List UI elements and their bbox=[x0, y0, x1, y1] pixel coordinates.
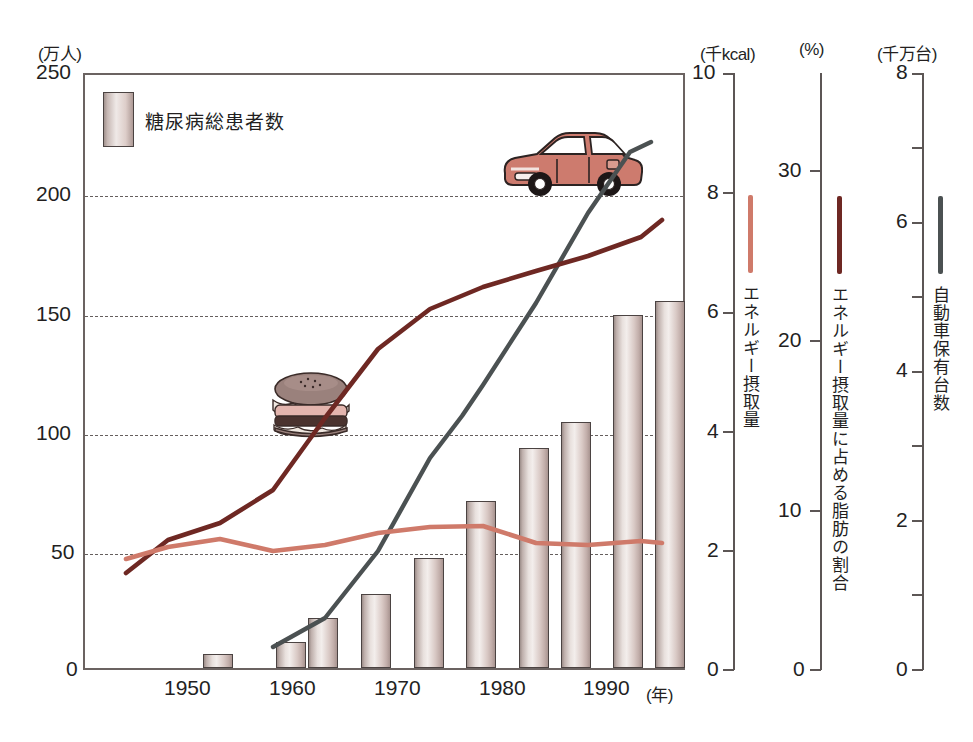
left-axis-tick-0: 0 bbox=[66, 657, 78, 681]
pct-axis-tick-30: 30 bbox=[778, 158, 801, 182]
pct-tickmark-10 bbox=[810, 510, 821, 512]
kcal-tickmark-8 bbox=[723, 192, 734, 194]
kcal-tickmark-0 bbox=[723, 669, 734, 671]
chart-canvas: (万人) 250 200 150 100 50 0 bbox=[0, 0, 973, 742]
cars-tickmark-3 bbox=[912, 445, 923, 447]
pct-series-label: エネルギー摂取量に占める脂肪の割合 bbox=[830, 286, 847, 592]
pct-tickmark-0 bbox=[810, 669, 821, 671]
pct-axis-line bbox=[820, 73, 822, 670]
kcal-axis-tick-6: 6 bbox=[707, 299, 719, 323]
plot-area: 糖尿病総患者数 bbox=[83, 73, 685, 670]
kcal-axis-tick-10: 10 bbox=[692, 60, 715, 84]
kcal-tickmark-2 bbox=[723, 550, 734, 552]
cars-series-swatch bbox=[938, 196, 943, 274]
kcal-axis-tick-2: 2 bbox=[707, 538, 719, 562]
cars-tickmark-1 bbox=[912, 594, 923, 596]
kcal-axis-tick-0: 0 bbox=[707, 657, 719, 681]
cars-axis-tick-2: 2 bbox=[896, 508, 908, 532]
x-axis-unit: (年) bbox=[646, 681, 673, 706]
cars-axis-tick-6: 6 bbox=[896, 209, 908, 233]
left-axis-tick-50: 50 bbox=[51, 540, 74, 564]
pct-axis-tick-20: 20 bbox=[778, 328, 801, 352]
kcal-series-swatch bbox=[748, 195, 753, 273]
x-axis-tick-1950: 1950 bbox=[164, 676, 211, 700]
legend-label-bars: 糖尿病総患者数 bbox=[145, 107, 285, 134]
series-lines bbox=[85, 75, 687, 672]
cars-tickmark-8 bbox=[912, 73, 923, 75]
kcal-series-label: エネルギー摂取量 bbox=[741, 285, 758, 429]
line-automobile-ownership bbox=[273, 142, 651, 647]
cars-tickmark-7 bbox=[912, 147, 923, 149]
kcal-tickmark-6 bbox=[723, 312, 734, 314]
cars-tickmark-4 bbox=[912, 371, 923, 373]
pct-axis-tick-10: 10 bbox=[778, 498, 801, 522]
cars-series-label: 自動車保有台数 bbox=[931, 286, 948, 412]
pct-axis-tick-0: 0 bbox=[793, 657, 805, 681]
legend-swatch-bars bbox=[103, 92, 134, 147]
pct-tickmark-20 bbox=[810, 340, 821, 342]
kcal-axis-tick-4: 4 bbox=[707, 419, 719, 443]
pct-axis-unit: (%) bbox=[799, 40, 824, 60]
kcal-tickmark-10 bbox=[723, 73, 734, 75]
line-energy-intake bbox=[126, 526, 662, 559]
x-axis-tick-1970: 1970 bbox=[374, 676, 421, 700]
kcal-axis-tick-8: 8 bbox=[707, 180, 719, 204]
left-axis-tick-100: 100 bbox=[36, 421, 71, 445]
kcal-tickmark-4 bbox=[723, 431, 734, 433]
pct-tickmark-30 bbox=[810, 170, 821, 172]
left-axis-tick-200: 200 bbox=[36, 182, 71, 206]
cars-axis-tick-4: 4 bbox=[896, 358, 908, 382]
x-axis-tick-1990: 1990 bbox=[583, 676, 630, 700]
cars-axis-tick-8: 8 bbox=[896, 60, 908, 84]
cars-tickmark-6 bbox=[912, 222, 923, 224]
cars-axis-tick-0: 0 bbox=[896, 657, 908, 681]
left-axis-tick-250: 250 bbox=[36, 60, 71, 84]
cars-tickmark-0 bbox=[912, 669, 923, 671]
left-axis-tick-150: 150 bbox=[36, 302, 71, 326]
pct-series-swatch bbox=[837, 196, 842, 274]
x-axis-tick-1980: 1980 bbox=[479, 676, 526, 700]
cars-tickmark-5 bbox=[912, 296, 923, 298]
cars-tickmark-2 bbox=[912, 520, 923, 522]
kcal-axis-line bbox=[733, 73, 735, 670]
x-axis-tick-1960: 1960 bbox=[269, 676, 316, 700]
